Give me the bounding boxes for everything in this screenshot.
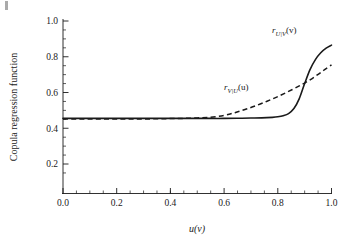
tick-marks xyxy=(63,21,332,194)
x-tick-label: 0.8 xyxy=(272,198,284,208)
y-tick-label: 1.0 xyxy=(46,16,58,26)
copula-regression-chart: 0.00.20.40.60.81.00.20.40.60.81.0 Copula… xyxy=(0,0,351,245)
x-tick-label: 0.4 xyxy=(164,198,176,208)
label-r-v-given-u: rV|U(u) xyxy=(224,82,248,94)
x-tick-label: 1.0 xyxy=(326,198,338,208)
svg-text:rU|V(v): rU|V(v) xyxy=(272,25,296,37)
series-line-r-u-given-v xyxy=(63,45,332,118)
x-tick-label: 0.0 xyxy=(57,198,69,208)
label-r-u-given-v: rU|V(v) xyxy=(272,25,296,37)
y-tick-label: 0.8 xyxy=(46,52,58,62)
y-tick-label: 0.6 xyxy=(46,88,58,98)
x-axis-title: u(v) xyxy=(189,223,206,235)
axes xyxy=(62,19,332,194)
x-tick-label: 0.2 xyxy=(111,198,123,208)
figure-container: 0.00.20.40.60.81.00.20.40.60.81.0 Copula… xyxy=(0,0,351,245)
tick-labels: 0.00.20.40.60.81.00.20.40.60.81.0 xyxy=(46,16,338,208)
y-tick-label: 0.4 xyxy=(46,124,58,134)
y-tick-label: 0.2 xyxy=(46,159,58,169)
svg-text:rV|U(u): rV|U(u) xyxy=(224,82,248,94)
x-tick-label: 0.6 xyxy=(218,198,230,208)
y-axis-title: Copula regression function xyxy=(8,53,19,161)
